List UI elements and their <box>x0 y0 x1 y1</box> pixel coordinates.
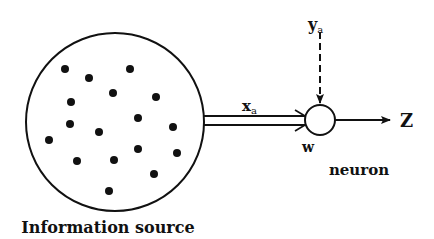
input-label: xa <box>242 97 257 116</box>
neuron-node <box>305 105 335 135</box>
source-point <box>173 149 181 157</box>
source-point <box>152 93 160 101</box>
neuron-label: neuron <box>329 161 389 179</box>
diagram-canvas: Information source xa ya w neuron Z <box>0 0 434 239</box>
source-point <box>134 114 142 122</box>
source-point <box>150 170 158 178</box>
source-label: Information source <box>21 218 194 237</box>
source-point <box>95 128 103 136</box>
source-point <box>169 123 177 131</box>
source-point <box>109 89 117 97</box>
source-point <box>45 136 53 144</box>
feedback-label: ya <box>307 15 323 35</box>
source-point <box>110 156 118 164</box>
source-point <box>134 145 142 153</box>
source-point <box>126 65 134 73</box>
source-circle <box>26 33 204 211</box>
source-points <box>45 65 181 195</box>
output-label: Z <box>400 110 413 131</box>
weight-label: w <box>301 139 315 155</box>
source-point <box>67 98 75 106</box>
information-source <box>26 33 204 211</box>
source-point <box>61 65 69 73</box>
source-point <box>66 120 74 128</box>
source-point <box>105 187 113 195</box>
source-point <box>73 157 81 165</box>
source-point <box>85 74 93 82</box>
